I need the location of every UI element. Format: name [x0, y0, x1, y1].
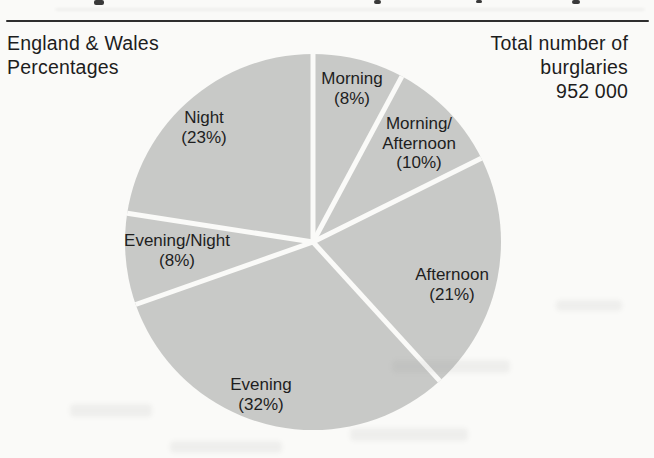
scan-ghosting: [350, 428, 468, 441]
pie-label-evening: Evening (32%): [230, 375, 291, 414]
scan-ghosting: [556, 300, 622, 311]
slice-name: Morning/: [382, 114, 456, 134]
scan-ghosting: [392, 360, 510, 373]
slice-name: Night: [181, 108, 226, 128]
scanned-pie-chart-page: England & Wales Percentages Total number…: [0, 0, 654, 458]
slice-name: Evening/Night: [124, 231, 230, 251]
pie-label-afternoon: Afternoon (21%): [415, 265, 489, 304]
slice-name: Afternoon: [415, 265, 489, 285]
slice-name: Evening: [230, 375, 291, 395]
pie-label-night: Night (23%): [181, 108, 226, 147]
pie-label-morning-afternoon: Morning/ Afternoon (10%): [382, 114, 456, 173]
slice-percent: (21%): [415, 284, 489, 304]
slice-percent: (10%): [382, 153, 456, 173]
pie-label-evening-night: Evening/Night (8%): [124, 231, 230, 270]
pie-label-morning: Morning (8%): [321, 69, 382, 108]
slice-name: Afternoon: [382, 133, 456, 153]
slice-percent: (23%): [181, 127, 226, 147]
slice-percent: (32%): [230, 394, 291, 414]
scan-ghosting: [70, 404, 152, 417]
slice-name: Morning: [321, 69, 382, 89]
slice-percent: (8%): [321, 88, 382, 108]
slice-percent: (8%): [124, 250, 230, 270]
scan-ghosting: [170, 441, 282, 453]
